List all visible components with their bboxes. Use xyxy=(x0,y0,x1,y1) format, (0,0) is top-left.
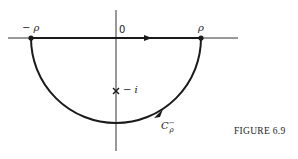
label-neg-i: − i xyxy=(123,85,138,95)
label-origin: 0 xyxy=(119,25,125,35)
endpoint-neg-rho xyxy=(28,35,33,40)
contour-diagram: − ρ 0 ρ − i C−ρ FIGURE 6.9 xyxy=(0,0,298,159)
contour-sub: ρ xyxy=(170,126,174,134)
label-rho: ρ xyxy=(198,23,204,33)
label-neg-rho: − ρ xyxy=(22,23,39,33)
arrow-right-icon xyxy=(144,35,152,41)
label-contour: C−ρ xyxy=(161,121,174,131)
figure-caption: FIGURE 6.9 xyxy=(234,126,286,136)
contour-base: C xyxy=(161,120,169,131)
endpoint-rho xyxy=(198,35,203,40)
